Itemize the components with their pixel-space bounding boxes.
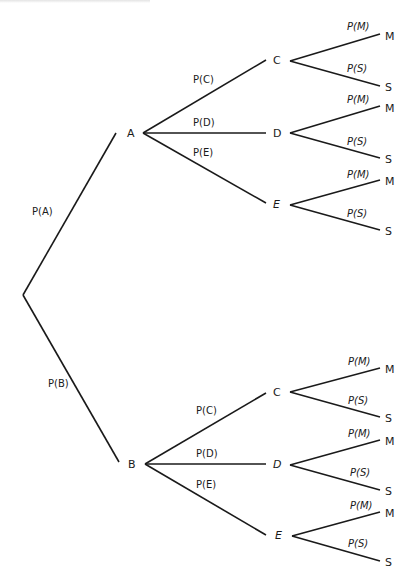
edge-label-B-D-P-M: P(M) — [348, 428, 370, 439]
edge-label-A-P-D: P(D) — [193, 117, 215, 128]
node-B-C-label: C — [273, 386, 281, 399]
leaf-B-C-S: S — [385, 412, 392, 425]
edge-B-E-to-M — [292, 512, 380, 536]
leaf-A-C-M: M — [385, 30, 395, 43]
edge-label-A-D-P-M: P(M) — [347, 94, 369, 105]
edge-label-B-P-D: P(D) — [196, 448, 218, 459]
edge-A-D-to-M — [290, 106, 380, 133]
leaf-B-C-M: M — [385, 363, 395, 376]
node-B-group: B P(C) P(D) P(E) C P(M) P(S) M S D P(M) … — [128, 356, 395, 569]
leaf-A-E-S: S — [385, 225, 392, 238]
edge-B-C-to-M — [290, 368, 380, 392]
node-B-D-label: D — [273, 458, 281, 471]
leaf-B-D-S: S — [385, 485, 392, 498]
edge-label-B-D-P-S: P(S) — [350, 467, 370, 478]
edge-B-to-E — [145, 464, 266, 535]
edge-label-B-P-C: P(C) — [196, 405, 217, 416]
edge-A-E-to-M — [290, 180, 380, 205]
leaf-B-E-M: M — [385, 507, 395, 520]
leaf-A-E-M: M — [385, 175, 395, 188]
edge-label-A-C-P-M: P(M) — [347, 21, 369, 32]
edge-label-B-C-P-M: P(M) — [348, 356, 370, 367]
node-A-group: A P(C) P(D) P(E) C P(M) P(S) M S D P(M) … — [127, 21, 395, 238]
leaf-B-D-M: M — [385, 435, 395, 448]
leaf-B-E-S: S — [385, 556, 392, 569]
edge-label-B-P-E: P(E) — [196, 479, 216, 490]
probability-tree-diagram: P(A) P(B) A P(C) P(D) P(E) C P(M) P(S) M… — [0, 0, 416, 587]
leaf-A-D-M: M — [385, 102, 395, 115]
node-A-D-label: D — [273, 127, 281, 140]
leaf-A-D-S: S — [385, 153, 392, 166]
edge-label-A-D-P-S: P(S) — [347, 136, 367, 147]
node-A-C-label: C — [273, 54, 281, 67]
root-branches: P(A) P(B) — [23, 133, 119, 462]
edge-root-to-B — [23, 295, 119, 462]
edge-label-P-B: P(B) — [48, 378, 69, 389]
edge-label-P-A: P(A) — [32, 206, 53, 217]
leaf-A-C-S: S — [385, 81, 392, 94]
edge-label-A-P-E: P(E) — [193, 147, 213, 158]
edge-label-B-E-P-M: P(M) — [350, 500, 372, 511]
node-A-label: A — [127, 127, 135, 140]
edge-A-C-to-M — [290, 34, 380, 61]
edge-A-to-E — [143, 133, 266, 203]
node-A-E-label: E — [273, 198, 280, 211]
edge-label-A-E-P-S: P(S) — [347, 208, 367, 219]
edge-label-A-E-P-M: P(M) — [347, 169, 369, 180]
edge-label-B-E-P-S: P(S) — [348, 538, 368, 549]
node-B-label: B — [128, 458, 136, 471]
node-B-E-label: E — [275, 529, 282, 542]
edge-label-A-C-P-S: P(S) — [347, 63, 367, 74]
edge-B-D-to-M — [290, 440, 380, 465]
edge-label-A-P-C: P(C) — [193, 74, 214, 85]
edge-label-B-C-P-S: P(S) — [348, 395, 368, 406]
